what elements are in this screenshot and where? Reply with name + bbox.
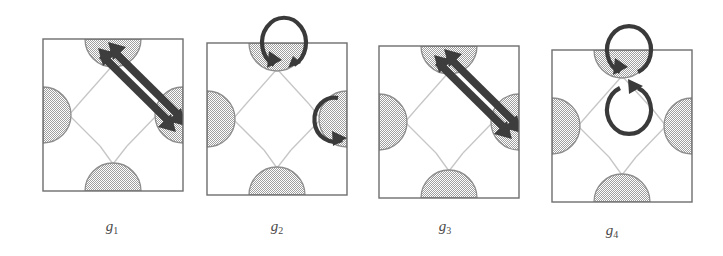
translation-double-arrow (434, 49, 520, 139)
atom-group (552, 50, 692, 202)
atom-bottom (594, 174, 650, 202)
atom-left (207, 91, 235, 147)
caption-g2: g2 (237, 218, 317, 236)
translation-double-arrow (98, 42, 184, 132)
caption-g1: g1 (72, 218, 152, 236)
atom-bottom (421, 170, 477, 198)
caption-g4: g4 (572, 222, 652, 240)
atom-bottom (85, 163, 141, 191)
bond-network (233, 69, 321, 168)
panel-g2 (200, 10, 360, 205)
panel-g3 (378, 45, 520, 199)
caption-g3-sub: 3 (446, 225, 451, 236)
lattice-symmetry-figure: g1 g2 g3 g4 (0, 0, 723, 256)
caption-g1-sub: 1 (113, 225, 118, 236)
atom-group (207, 43, 347, 195)
atom-left (379, 94, 407, 150)
caption-g2-sub: 2 (278, 225, 283, 236)
atom-bottom (249, 167, 305, 195)
atom-left (43, 87, 71, 143)
rotation-loop-lower (607, 88, 651, 134)
bond-network (578, 76, 666, 175)
atom-left (552, 98, 580, 154)
caption-g4-sub: 4 (613, 229, 618, 240)
panel-g4 (545, 14, 705, 209)
caption-g3: g3 (405, 218, 485, 236)
panel-g1 (42, 38, 184, 192)
atom-right (664, 98, 692, 154)
